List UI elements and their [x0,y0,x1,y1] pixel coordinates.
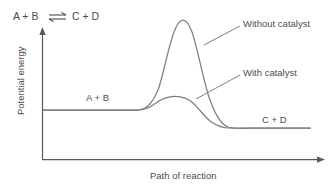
x-axis [43,157,326,163]
reaction-energy-profile-figure: A + B C + D Potential energy Path of rea… [0,0,331,189]
y-axis [39,27,45,160]
equation-reactants: A + B [13,11,38,22]
series-label-with-catalyst: With catalyst [243,68,297,78]
equation-products: C + D [72,11,99,22]
leader-line-without-catalyst [204,26,240,45]
equilibrium-arrow-icon [49,13,66,22]
reactant-level-label: A + B [86,93,109,103]
y-axis-label: Potential energy [16,36,26,126]
x-axis-label: Path of reaction [150,171,217,181]
leader-line-with-catalyst [196,75,240,99]
product-level-label: C + D [262,115,287,125]
series-label-without-catalyst: Without catalyst [243,19,310,29]
